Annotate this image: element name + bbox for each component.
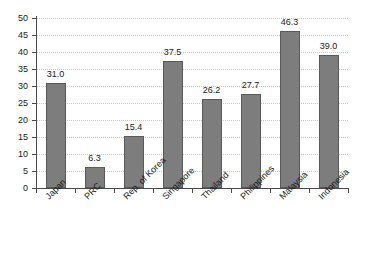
- y-axis-tick: [32, 137, 36, 138]
- y-axis-tick: [32, 154, 36, 155]
- y-axis-tick-label: 0: [2, 184, 28, 193]
- y-axis-tick: [32, 120, 36, 121]
- y-axis-tick: [32, 86, 36, 87]
- bar: [46, 83, 66, 188]
- bar-chart: 05101520253035404550 31.06.315.437.526.2…: [0, 0, 366, 256]
- bar-value-label: 31.0: [36, 70, 76, 79]
- y-axis-tick-label: 45: [2, 31, 28, 40]
- x-axis-tick: [153, 188, 154, 193]
- y-axis-tick: [32, 35, 36, 36]
- y-axis-tick-label: 30: [2, 82, 28, 91]
- x-axis-tick: [36, 188, 37, 193]
- y-axis-line: [36, 16, 37, 189]
- gridline: [36, 103, 348, 104]
- x-axis-tick: [231, 188, 232, 193]
- bar-value-label: 39.0: [309, 42, 349, 51]
- bar-value-label: 15.4: [114, 123, 154, 132]
- x-axis-tick: [270, 188, 271, 193]
- y-axis-tick-label: 25: [2, 99, 28, 108]
- x-axis-tick: [75, 188, 76, 193]
- bar-value-label: 27.7: [231, 81, 271, 90]
- x-axis-tick: [192, 188, 193, 193]
- y-axis-tick-label: 20: [2, 116, 28, 125]
- y-axis-tick-label: 5: [2, 167, 28, 176]
- y-axis-tick-label: 15: [2, 133, 28, 142]
- y-axis-tick: [32, 103, 36, 104]
- bar: [280, 31, 300, 188]
- bar-value-label: 6.3: [75, 154, 115, 163]
- x-axis-tick: [309, 188, 310, 193]
- y-axis-tick-label: 10: [2, 150, 28, 159]
- x-axis-tick: [348, 188, 349, 193]
- y-axis-tick-label: 50: [2, 14, 28, 23]
- gridline: [36, 35, 348, 36]
- y-axis-tick-label: 40: [2, 48, 28, 57]
- bar: [319, 55, 339, 188]
- bar-value-label: 46.3: [270, 18, 310, 27]
- y-axis-tick: [32, 171, 36, 172]
- bar: [163, 61, 183, 189]
- bar-value-label: 26.2: [192, 86, 232, 95]
- gridline: [36, 69, 348, 70]
- y-axis-tick-label: 35: [2, 65, 28, 74]
- gridline: [36, 120, 348, 121]
- gridline: [36, 137, 348, 138]
- x-axis-tick: [114, 188, 115, 193]
- y-axis-tick: [32, 52, 36, 53]
- y-axis-tick: [32, 18, 36, 19]
- bar-value-label: 37.5: [153, 48, 193, 57]
